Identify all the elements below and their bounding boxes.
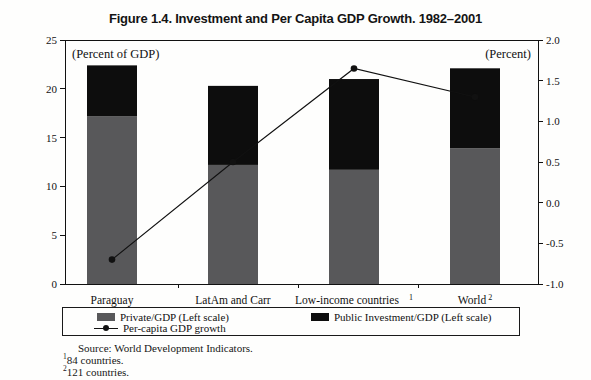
x-axis-label-3: World2 (458, 293, 492, 306)
bar-segment-1-1 (208, 86, 258, 165)
left-axis-tick-label: 15 (46, 132, 58, 144)
right-axis-tick-label: -1.0 (546, 278, 564, 290)
right-axis-tick-label: 0.0 (546, 197, 560, 209)
x-axis-label-2: Low-income countries1 (295, 293, 413, 306)
right-axis-caption: (Percent) (485, 47, 531, 61)
legend-item-growth: Per-capita GDP growth (94, 322, 226, 334)
footnote-1-text: 84 countries. (67, 354, 124, 366)
growth-line (112, 68, 475, 259)
bar-segment-1-3 (450, 68, 500, 148)
x-axis-label-1: LatAm and Carr (195, 294, 271, 306)
figure-page: Figure 1.4. Investment and Per Capita GD… (0, 0, 591, 380)
left-axis-caption: (Percent of GDP) (72, 47, 159, 61)
growth-marker-3 (472, 94, 479, 101)
growth-marker-0 (109, 256, 116, 263)
bar-segment-1-0 (87, 65, 137, 116)
right-axis-tick-label: 1.5 (546, 75, 560, 87)
footnote-1: 184 countries. (63, 354, 253, 366)
bar-segment-0-2 (329, 170, 379, 284)
line-marker-icon (94, 324, 118, 333)
x-axis-label-0: Paraguay (91, 294, 134, 307)
left-axis-tick-label: 0 (52, 278, 58, 290)
legend-item-public: Public Investment/GDP (Left scale) (311, 311, 492, 323)
left-axis-tick-label: 20 (46, 83, 58, 95)
right-axis-tick-label: 1.0 (546, 115, 560, 127)
legend-label-public: Public Investment/GDP (Left scale) (334, 311, 492, 323)
growth-marker-2 (351, 65, 358, 72)
legend-swatch-private (97, 313, 115, 321)
left-axis-tick-label: 25 (46, 34, 58, 46)
left-axis-tick-label: 10 (46, 180, 58, 192)
right-axis-tick-label: 0.5 (546, 156, 560, 168)
bar-segment-0-3 (450, 148, 500, 284)
left-axis-tick-label: 5 (52, 229, 58, 241)
right-axis-tick-label: -0.5 (546, 237, 564, 249)
right-axis-tick-label: 2.0 (546, 34, 560, 46)
legend-label-growth: Per-capita GDP growth (123, 322, 226, 334)
figure-footer: Source: World Development Indicators. 18… (0, 342, 253, 378)
footnote-2-text: 121 countries. (67, 366, 129, 378)
growth-marker-1 (230, 159, 237, 166)
bar-segment-1-2 (329, 79, 379, 170)
legend-swatch-public (311, 313, 329, 321)
source-line: Source: World Development Indicators. (78, 342, 253, 354)
bar-segment-0-1 (208, 165, 258, 284)
footnote-2: 2121 countries. (63, 366, 253, 378)
legend: Private/GDP (Left scale) Public Investme… (62, 307, 520, 336)
